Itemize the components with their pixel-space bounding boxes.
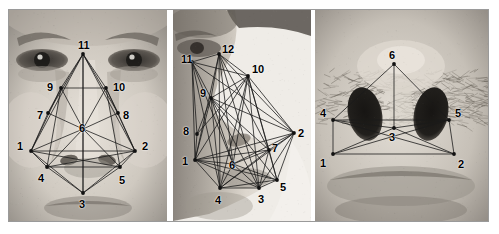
landmark-label-1: 1: [17, 141, 23, 152]
landmark-node-3[interactable]: [81, 191, 85, 195]
landmark-node-8[interactable]: [195, 132, 199, 136]
landmark-node-5[interactable]: [118, 165, 122, 169]
landmark-label-8: 8: [123, 110, 129, 121]
landmark-label-6: 6: [79, 123, 85, 134]
nose-closeup-graph: [315, 10, 488, 221]
landmark-label-3: 3: [258, 194, 264, 205]
landmark-label-1: 1: [182, 156, 188, 167]
landmark-label-4: 4: [320, 108, 326, 119]
landmark-node-1[interactable]: [193, 158, 197, 162]
landmark-label-10: 10: [252, 64, 264, 75]
landmark-label-6: 6: [389, 50, 395, 61]
landmark-node-9[interactable]: [209, 96, 213, 100]
figure-root: 1234567891011 123456789101112 123456: [0, 0, 499, 234]
landmark-label-9: 9: [200, 88, 206, 99]
landmark-label-7: 7: [272, 143, 278, 154]
landmark-node-10[interactable]: [104, 86, 108, 90]
landmark-node-3[interactable]: [392, 126, 396, 130]
landmark-node-6[interactable]: [392, 62, 396, 66]
panel-frontal-face: 1234567891011: [9, 10, 167, 221]
landmark-label-4: 4: [38, 173, 44, 184]
landmark-node-3[interactable]: [257, 186, 261, 190]
landmark-node-11[interactable]: [81, 52, 85, 56]
landmark-label-7: 7: [37, 110, 43, 121]
landmark-node-1[interactable]: [331, 152, 335, 156]
landmark-node-7[interactable]: [267, 148, 271, 152]
landmark-node-10[interactable]: [246, 74, 250, 78]
landmark-node-5[interactable]: [447, 118, 451, 122]
landmark-node-9[interactable]: [59, 86, 63, 90]
landmark-label-3: 3: [389, 132, 395, 143]
landmark-label-1: 1: [320, 158, 326, 169]
landmark-label-11: 11: [181, 54, 193, 65]
landmark-label-5: 5: [455, 108, 461, 119]
landmark-node-4[interactable]: [331, 118, 335, 122]
landmark-label-3: 3: [79, 199, 85, 210]
landmark-node-12[interactable]: [217, 52, 221, 56]
landmark-node-2[interactable]: [292, 131, 296, 135]
figure-plate: 1234567891011 123456789101112 123456: [8, 9, 489, 222]
landmark-label-2: 2: [458, 159, 464, 170]
landmark-node-7[interactable]: [46, 111, 50, 115]
landmark-label-5: 5: [119, 175, 125, 186]
landmark-label-2: 2: [298, 128, 304, 139]
landmark-node-4[interactable]: [218, 186, 222, 190]
panel-nose-closeup: 123456: [315, 10, 488, 221]
landmark-label-11: 11: [78, 40, 90, 51]
landmark-label-9: 9: [47, 82, 53, 93]
landmark-node-2[interactable]: [133, 149, 137, 153]
landmark-label-12: 12: [222, 44, 234, 55]
landmark-node-4[interactable]: [45, 165, 49, 169]
landmark-node-2[interactable]: [452, 152, 456, 156]
panel-profile-face: 123456789101112: [173, 10, 311, 221]
landmark-label-2: 2: [142, 141, 148, 152]
landmark-node-8[interactable]: [116, 111, 120, 115]
landmark-label-5: 5: [280, 182, 286, 193]
landmark-node-5[interactable]: [275, 178, 279, 182]
landmark-label-4: 4: [215, 195, 221, 206]
landmark-label-10: 10: [113, 82, 125, 93]
landmark-label-8: 8: [183, 126, 189, 137]
landmark-node-1[interactable]: [29, 149, 33, 153]
landmark-label-6: 6: [229, 160, 235, 171]
profile-face-graph: [173, 10, 311, 221]
